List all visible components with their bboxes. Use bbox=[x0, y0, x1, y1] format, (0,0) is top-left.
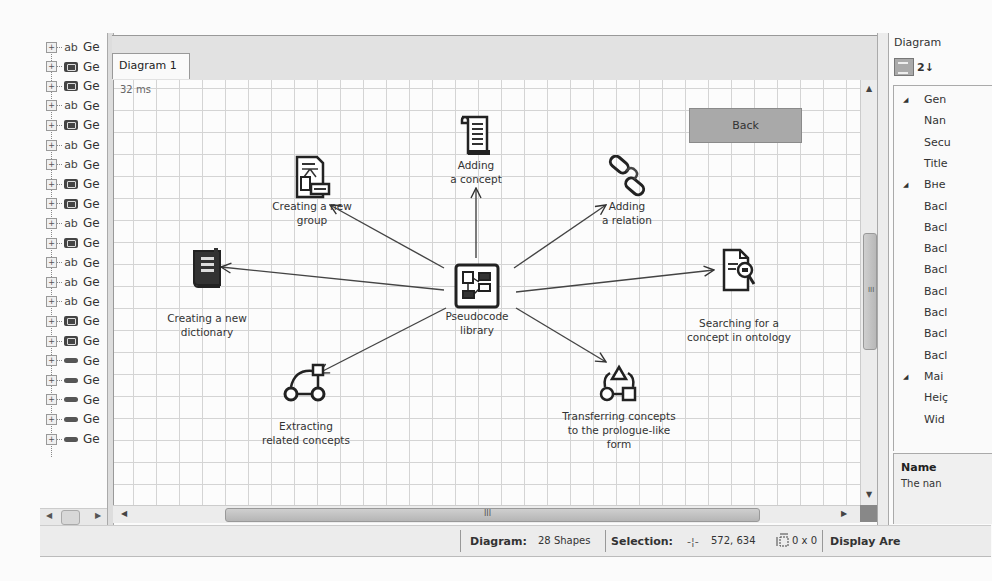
property-row[interactable]: Bacl bbox=[894, 349, 992, 369]
tab-diagram-1[interactable]: Diagram 1 bbox=[112, 53, 190, 79]
expand-icon[interactable]: + bbox=[46, 61, 57, 72]
property-row[interactable]: Wid bbox=[894, 413, 992, 433]
tree-item[interactable]: +Ge bbox=[46, 332, 100, 350]
expand-icon[interactable]: + bbox=[46, 140, 57, 151]
grip-icon: III bbox=[868, 286, 874, 294]
property-label: Bacl bbox=[924, 327, 947, 340]
tree-item[interactable]: +Ge bbox=[46, 371, 100, 389]
tree-item[interactable]: +Ge bbox=[46, 116, 100, 134]
scroll-right-arrow-icon[interactable]: ▶ bbox=[95, 511, 101, 520]
node-searching-concept[interactable]: Searching for a concept in ontology bbox=[679, 248, 799, 344]
property-row[interactable]: Nan bbox=[894, 114, 992, 134]
expand-icon[interactable]: + bbox=[46, 120, 57, 131]
property-row[interactable]: Bacl bbox=[894, 221, 992, 241]
collapse-icon[interactable]: ◢ bbox=[903, 96, 908, 104]
node-creating-new-dictionary[interactable]: Creating a new dictionary bbox=[157, 247, 257, 339]
vertical-scroll-thumb[interactable]: III bbox=[863, 233, 877, 350]
property-row[interactable]: Bacl bbox=[894, 200, 992, 220]
expand-icon[interactable]: + bbox=[46, 355, 57, 366]
expand-icon[interactable]: + bbox=[46, 277, 57, 288]
expand-icon[interactable]: + bbox=[46, 42, 57, 53]
property-row[interactable]: Bacl bbox=[894, 327, 992, 347]
tree-horizontal-scrollbar[interactable]: ◀ ▶ bbox=[40, 508, 108, 525]
expand-icon[interactable]: + bbox=[46, 100, 57, 111]
control-icon bbox=[64, 120, 78, 130]
grip-icon: III bbox=[484, 509, 491, 518]
tree-scroll-thumb[interactable] bbox=[61, 510, 80, 525]
property-row[interactable]: Secu bbox=[894, 136, 992, 156]
tree-item[interactable]: +Ge bbox=[46, 352, 100, 370]
expand-icon[interactable]: + bbox=[46, 414, 57, 425]
status-diagram-label: Diagram: bbox=[470, 535, 527, 548]
expand-icon[interactable]: + bbox=[46, 198, 57, 209]
node-pseudocode-library[interactable]: Pseudocode library bbox=[427, 263, 527, 337]
property-row[interactable]: Bacl bbox=[894, 306, 992, 326]
tree-item[interactable]: +abGe bbox=[46, 38, 100, 56]
node-adding-concept[interactable]: Adding a concept bbox=[426, 114, 526, 186]
tree-item[interactable]: +abGe bbox=[46, 214, 100, 232]
toolbox-tree: +abGe+Ge+Ge+abGe+Ge+abGe+abGe+Ge+Ge+abGe… bbox=[40, 35, 110, 505]
tree-item[interactable]: +Ge bbox=[46, 312, 100, 330]
tree-item-label: Ge bbox=[83, 314, 100, 328]
back-button[interactable]: Back bbox=[689, 108, 802, 143]
tree-item[interactable]: +Ge bbox=[46, 77, 100, 95]
tree-item[interactable]: +Ge bbox=[46, 430, 100, 448]
property-category[interactable]: ◢Bнe bbox=[894, 178, 992, 198]
property-row[interactable]: Title bbox=[894, 157, 992, 177]
horizontal-scroll-thumb[interactable]: III bbox=[225, 508, 760, 522]
expand-icon[interactable]: + bbox=[46, 434, 57, 445]
property-grid[interactable]: ◢GenNanSecuTitle◢BнeBaclBaclBaclBaclBacl… bbox=[893, 85, 992, 451]
expand-icon[interactable]: + bbox=[46, 159, 57, 170]
canvas-vertical-scrollbar[interactable]: ▲ III ▼ bbox=[860, 80, 878, 505]
tree-item[interactable]: +abGe bbox=[46, 156, 100, 174]
tree-item-label: Ge bbox=[83, 236, 100, 250]
canvas-horizontal-scrollbar[interactable]: ◀ III ▶ bbox=[113, 505, 860, 523]
expand-icon[interactable]: + bbox=[46, 375, 57, 386]
scroll-right-arrow-icon[interactable]: ▶ bbox=[841, 509, 847, 518]
property-row[interactable]: Bacl bbox=[894, 263, 992, 283]
tree-item[interactable]: +Ge bbox=[46, 175, 100, 193]
sort-alphabetical-button[interactable]: 2↓ bbox=[917, 61, 934, 74]
expand-icon[interactable]: + bbox=[46, 257, 57, 268]
tree-item[interactable]: +abGe bbox=[46, 293, 100, 311]
node-extracting-related-concepts[interactable]: Extracting related concepts bbox=[251, 363, 361, 447]
scroll-down-arrow-icon[interactable]: ▼ bbox=[866, 490, 872, 499]
status-bar: Diagram: 28 Shapes Selection: -¦- 572, 6… bbox=[40, 525, 991, 557]
scroll-left-arrow-icon[interactable]: ◀ bbox=[46, 511, 52, 520]
expand-icon[interactable]: + bbox=[46, 336, 57, 347]
tree-item-label: Ge bbox=[83, 256, 100, 270]
property-row[interactable]: Bacl bbox=[894, 242, 992, 262]
expand-icon[interactable]: + bbox=[46, 296, 57, 307]
categorized-view-button[interactable] bbox=[894, 58, 914, 76]
tree-item[interactable]: +abGe bbox=[46, 136, 100, 154]
expand-icon[interactable]: + bbox=[46, 218, 57, 229]
expand-icon[interactable]: + bbox=[46, 316, 57, 327]
expand-icon[interactable]: + bbox=[46, 394, 57, 405]
node-transferring-concepts[interactable]: Transferring concepts to the prologue-li… bbox=[549, 363, 689, 451]
property-category[interactable]: ◢Gen bbox=[894, 93, 992, 113]
tree-item[interactable]: +Ge bbox=[46, 391, 100, 409]
tree-item[interactable]: +abGe bbox=[46, 254, 100, 272]
tree-item[interactable]: +abGe bbox=[46, 273, 100, 291]
property-row[interactable]: Bacl bbox=[894, 285, 992, 305]
right-panel-splitter[interactable] bbox=[877, 33, 889, 525]
node-creating-new-group[interactable]: Creating a new group bbox=[262, 155, 362, 227]
node-adding-relation[interactable]: Adding a relation bbox=[577, 155, 677, 227]
property-row[interactable]: Heiç bbox=[894, 391, 992, 411]
tree-item[interactable]: +abGe bbox=[46, 97, 100, 115]
expand-icon[interactable]: + bbox=[46, 179, 57, 190]
collapse-icon[interactable]: ◢ bbox=[903, 373, 908, 381]
tree-item-label: Ge bbox=[83, 60, 100, 74]
scroll-up-arrow-icon[interactable]: ▲ bbox=[866, 84, 872, 93]
tree-item[interactable]: +Ge bbox=[46, 195, 100, 213]
property-category[interactable]: ◢Mai bbox=[894, 370, 992, 390]
tree-connector bbox=[57, 380, 62, 381]
scroll-left-arrow-icon[interactable]: ◀ bbox=[121, 509, 127, 518]
diagram-canvas[interactable]: 32 ms Back Pseudocode librar bbox=[113, 80, 861, 505]
expand-icon[interactable]: + bbox=[46, 238, 57, 249]
expand-icon[interactable]: + bbox=[46, 81, 57, 92]
tree-item[interactable]: +Ge bbox=[46, 410, 100, 428]
tree-item[interactable]: +Ge bbox=[46, 58, 100, 76]
tree-item[interactable]: +Ge bbox=[46, 234, 100, 252]
collapse-icon[interactable]: ◢ bbox=[903, 181, 908, 189]
